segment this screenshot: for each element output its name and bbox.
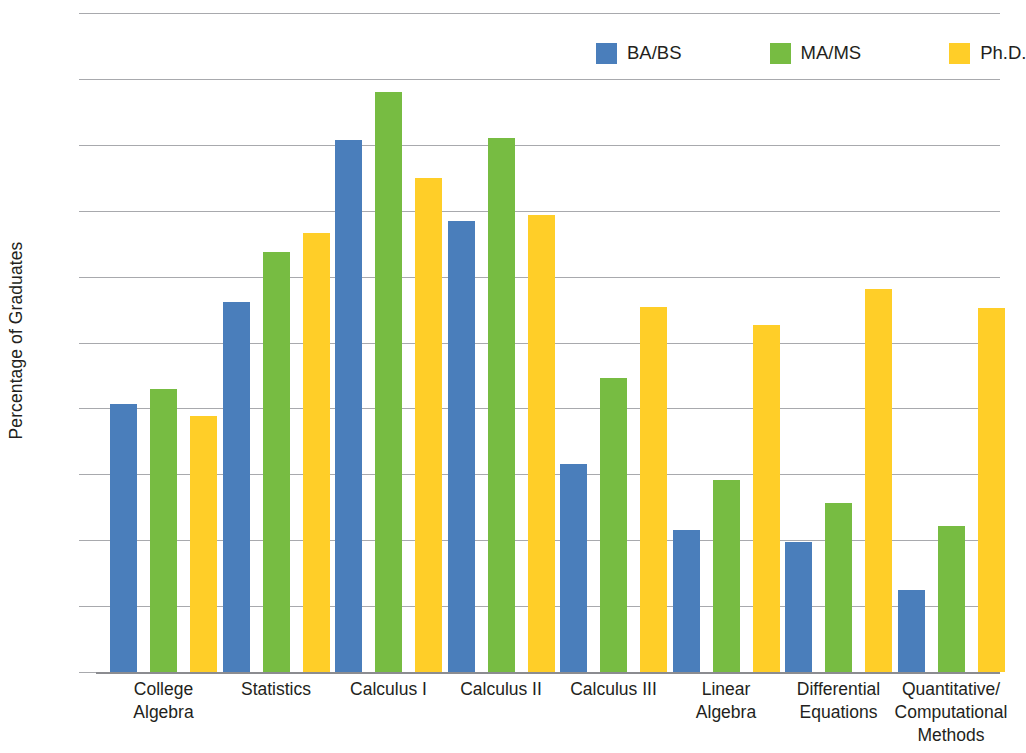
bar xyxy=(190,416,217,672)
y-tick-mark xyxy=(79,145,96,146)
y-tick-mark xyxy=(79,79,96,80)
bar xyxy=(865,289,892,672)
y-tick-mark xyxy=(79,343,96,344)
bar-group xyxy=(448,13,555,672)
bar xyxy=(600,378,627,672)
legend-swatch-icon xyxy=(596,43,617,64)
legend-label: BA/BS xyxy=(627,42,682,64)
y-tick-mark xyxy=(79,277,96,278)
legend-item[interactable]: BA/BS xyxy=(596,42,682,64)
bar-group xyxy=(785,13,892,672)
bar xyxy=(303,233,330,672)
x-axis-label-line: Quantitative/ xyxy=(885,678,1017,701)
plot-area: 100%90%80%70%60%50%40%30%20%10%0% xyxy=(96,13,1000,672)
legend-item[interactable]: MA/MS xyxy=(770,42,862,64)
y-axis-title: Percentage of Graduates xyxy=(0,0,34,680)
x-axis-label-line: Algebra xyxy=(98,701,230,724)
legend-label: MA/MS xyxy=(801,42,862,64)
x-axis-label: Quantitative/ComputationalMethods xyxy=(885,678,1017,747)
bar xyxy=(488,138,515,672)
bar-group xyxy=(898,13,1005,672)
y-tick-mark xyxy=(79,540,96,541)
bar xyxy=(978,308,1005,672)
x-axis-label-line: Computational xyxy=(885,701,1017,724)
bar-group xyxy=(673,13,780,672)
y-axis-title-text: Percentage of Graduates xyxy=(7,241,28,439)
bar xyxy=(640,307,667,672)
bar xyxy=(415,178,442,672)
y-tick-mark xyxy=(79,606,96,607)
bar xyxy=(223,302,250,672)
y-tick-mark xyxy=(79,474,96,475)
legend-swatch-icon xyxy=(949,43,970,64)
x-axis-label-line: Methods xyxy=(885,724,1017,747)
bar xyxy=(375,92,402,672)
bar xyxy=(753,325,780,672)
bar xyxy=(673,530,700,672)
bar xyxy=(713,480,740,672)
bar xyxy=(110,404,137,672)
gridline xyxy=(96,672,1000,674)
bar xyxy=(150,389,177,672)
legend-label: Ph.D. xyxy=(980,42,1026,64)
y-tick-mark xyxy=(79,672,96,673)
bar xyxy=(528,215,555,672)
bar-group xyxy=(110,13,217,672)
bar xyxy=(898,590,925,672)
legend: BA/BSMA/MSPh.D. xyxy=(596,40,1026,66)
y-tick-mark xyxy=(79,408,96,409)
bar xyxy=(448,221,475,672)
x-axis-labels: CollegeAlgebraStatisticsCalculus ICalcul… xyxy=(96,678,1000,753)
y-tick-mark xyxy=(79,211,96,212)
legend-swatch-icon xyxy=(770,43,791,64)
legend-item[interactable]: Ph.D. xyxy=(949,42,1026,64)
bar xyxy=(560,464,587,672)
bar-group xyxy=(335,13,442,672)
y-tick-mark xyxy=(79,13,96,14)
bar xyxy=(825,503,852,672)
bar-group xyxy=(560,13,667,672)
bar xyxy=(938,526,965,672)
bar xyxy=(785,542,812,672)
bar-group xyxy=(223,13,330,672)
bar xyxy=(263,252,290,672)
bar xyxy=(335,140,362,672)
